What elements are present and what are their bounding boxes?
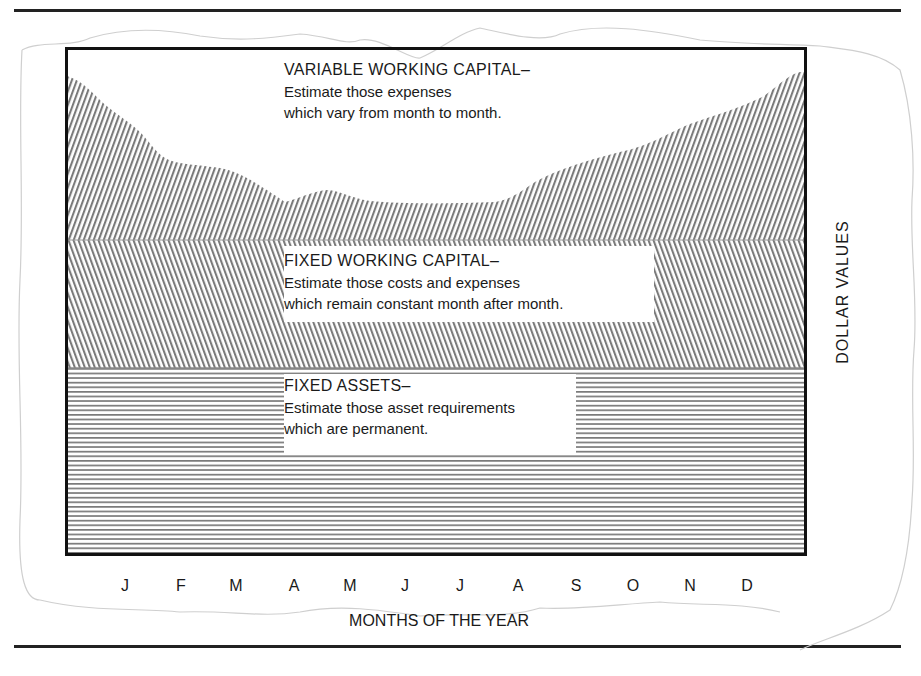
fixed-assets-desc-2: which are permanent. — [284, 421, 576, 436]
fixed-assets-title: FIXED ASSETS– — [284, 378, 576, 394]
x-axis-label: MONTHS OF THE YEAR — [349, 612, 529, 630]
fixed-working-capital-label: FIXED WORKING CAPITAL– Estimate those co… — [284, 246, 654, 322]
month-tick-jun: J — [401, 577, 409, 595]
month-tick-may: M — [343, 577, 356, 595]
month-tick-mar: M — [229, 577, 242, 595]
month-tick-nov: N — [684, 577, 696, 595]
month-tick-feb: F — [176, 577, 186, 595]
fixed-working-capital-desc-2: which remain constant month after month. — [284, 296, 654, 311]
fixed-working-capital-title: FIXED WORKING CAPITAL– — [284, 253, 654, 269]
month-tick-aug: A — [513, 577, 524, 595]
month-tick-dec: D — [741, 577, 753, 595]
month-tick-sep: S — [571, 577, 582, 595]
fixed-assets-label: FIXED ASSETS– Estimate those asset requi… — [284, 374, 576, 455]
variable-working-capital-label: VARIABLE WORKING CAPITAL– Estimate those… — [284, 62, 530, 120]
fixed-working-capital-desc-1: Estimate those costs and expenses — [284, 275, 654, 290]
fixed-assets-desc-1: Estimate those asset requirements — [284, 400, 576, 415]
y-axis-label: DOLLAR VALUES — [834, 220, 852, 363]
variable-working-capital-title: VARIABLE WORKING CAPITAL– — [284, 62, 530, 78]
month-tick-apr: A — [289, 577, 300, 595]
month-tick-jan: J — [121, 577, 129, 595]
month-tick-oct: O — [627, 577, 639, 595]
variable-working-capital-desc-1: Estimate those expenses — [284, 84, 530, 99]
month-tick-jul: J — [456, 577, 464, 595]
variable-working-capital-desc-2: which vary from month to month. — [284, 105, 530, 120]
